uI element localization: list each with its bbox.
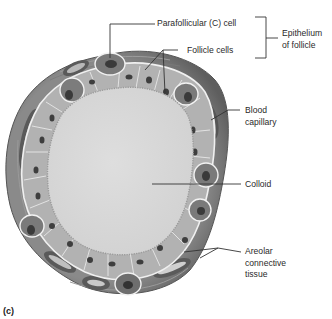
label-areolar-connective-tissue: Areolar connective tissue	[245, 246, 286, 281]
label-blood-capillary: Blood capillary	[245, 105, 277, 128]
panel-label: (c)	[3, 306, 14, 316]
label-blood-line1: Blood	[245, 105, 277, 117]
label-areolar-line3: tissue	[245, 269, 286, 281]
label-epithelium-line1: Epithelium	[282, 28, 322, 40]
bracket-epithelium	[255, 17, 266, 58]
label-blood-line2: capillary	[245, 117, 277, 129]
label-epithelium-line2: of follicle	[282, 40, 322, 52]
label-parafollicular-cell: Parafollicular (C) cell	[157, 18, 236, 30]
label-areolar-line2: connective	[245, 258, 286, 270]
label-follicle-cells: Follicle cells	[187, 45, 233, 57]
label-colloid: Colloid	[245, 179, 271, 191]
label-epithelium-of-follicle: Epithelium of follicle	[282, 28, 322, 51]
colloid	[48, 87, 194, 255]
label-areolar-line1: Areolar	[245, 246, 286, 258]
